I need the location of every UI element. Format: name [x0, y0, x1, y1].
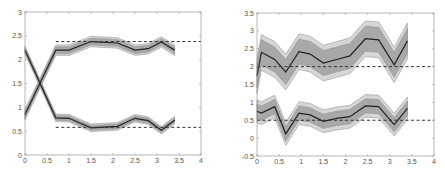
x-tick-label: 3	[155, 157, 159, 164]
x-tick-label: 2.5	[130, 157, 140, 164]
x-tick-label: 0.5	[42, 157, 52, 164]
x-tick-label: 0	[255, 158, 259, 165]
x-tick-label: 1	[299, 158, 303, 165]
confidence-band-inner	[25, 38, 175, 118]
x-tick-label: 0.5	[274, 158, 284, 165]
x-tick-label: 3.5	[407, 158, 417, 165]
x-tick-label: 1	[67, 157, 71, 164]
y-tick-label: 2	[18, 56, 22, 63]
y-tick-label: 3.5	[244, 10, 254, 17]
y-tick-label: 3	[250, 27, 254, 34]
x-tick-label: 0	[23, 157, 27, 164]
x-tick-label: 4	[432, 158, 436, 165]
y-tick-label: 1.5	[12, 80, 22, 87]
y-tick-label: 1.5	[244, 81, 254, 88]
x-tick-label: 2.5	[363, 158, 373, 165]
x-tick-label: 2	[111, 157, 115, 164]
x-tick-label: 1.5	[86, 157, 96, 164]
y-tick-label: 2	[250, 63, 254, 70]
x-tick-label: 3	[388, 158, 392, 165]
y-tick-label: -0.5	[242, 153, 254, 160]
figure-canvas: 00.511.522.533.5400.511.522.53 00.511.52…	[0, 0, 445, 174]
y-tick-label: 3	[18, 9, 22, 16]
x-tick-label: 4	[199, 157, 203, 164]
y-tick-label: 1	[18, 104, 22, 111]
y-tick-label: 1	[250, 99, 254, 106]
y-tick-label: 0.5	[12, 128, 22, 135]
y-tick-label: 2.5	[244, 45, 254, 52]
y-tick-label: 2.5	[12, 32, 22, 39]
y-tick-label: 0	[18, 152, 22, 159]
axes-box	[25, 12, 201, 155]
right-chart: 00.511.522.533.54-0.500.511.522.533.5	[242, 10, 436, 166]
x-tick-label: 2	[344, 158, 348, 165]
y-tick-label: 0.5	[244, 117, 254, 124]
y-tick-label: 0	[250, 135, 254, 142]
x-tick-label: 3.5	[174, 157, 184, 164]
x-tick-label: 1.5	[319, 158, 329, 165]
left-chart: 00.511.522.533.5400.511.522.53	[12, 9, 203, 165]
